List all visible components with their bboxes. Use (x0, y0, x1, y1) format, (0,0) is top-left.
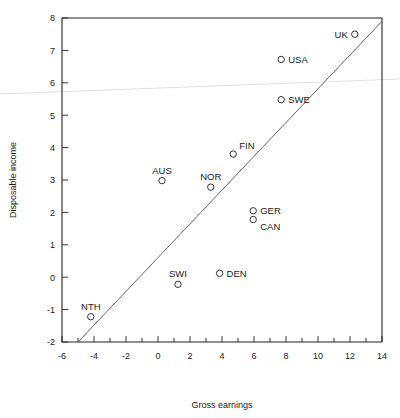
y-tick-label: 7 (50, 46, 55, 56)
data-point-label-swi: SWI (169, 268, 187, 279)
x-tick-label: 12 (345, 351, 355, 361)
x-tick-label: 6 (251, 351, 256, 361)
y-tick-label: 1 (50, 240, 55, 250)
data-point-label-fin: FIN (239, 140, 254, 151)
x-tick-label: 8 (283, 351, 288, 361)
data-point-label-nor: NOR (200, 171, 221, 182)
x-tick-label: 4 (219, 351, 224, 361)
data-point-label-swe: SWE (288, 94, 310, 105)
data-point-marker-uk (352, 31, 358, 37)
data-point-marker-can (250, 216, 256, 222)
data-point-label-uk: UK (335, 29, 349, 40)
y-tick-label: 5 (50, 111, 55, 121)
x-tick-label: 14 (377, 351, 387, 361)
y-tick-label: 8 (50, 13, 55, 23)
data-point-label-ger: GER (260, 205, 281, 216)
data-point-marker-swi (175, 281, 181, 287)
y-tick-label: 6 (50, 78, 55, 88)
reference-diagonal-line (78, 21, 382, 342)
x-axis-title: Gross earnings (191, 400, 253, 410)
scan-artifact-line (0, 79, 400, 94)
data-point-marker-den (216, 270, 222, 276)
y-axis-title: Disposable income (8, 142, 18, 218)
x-tick-label: 10 (313, 351, 323, 361)
data-point-marker-swe (278, 96, 284, 102)
x-tick-label: -2 (122, 351, 130, 361)
data-point-label-usa: USA (288, 54, 308, 65)
scatter-chart-figure: -6-4-202468101214 -2-1012345678 UKUSASWE… (0, 0, 400, 418)
y-tick-label: -2 (47, 337, 55, 347)
y-tick-group: -2-1012345678 (47, 13, 68, 347)
data-point-marker-ger (250, 208, 256, 214)
data-points-group: UKUSASWEFINAUSNORGERCANDENSWINTH (81, 29, 358, 320)
chart-axes (62, 18, 382, 342)
x-tick-label: 2 (187, 351, 192, 361)
x-tick-group: -6-4-202468101214 (58, 336, 387, 361)
y-tick-label: 0 (50, 273, 55, 283)
data-point-marker-nor (208, 184, 214, 190)
chart-canvas: -6-4-202468101214 -2-1012345678 UKUSASWE… (0, 0, 400, 418)
y-tick-label: 4 (50, 143, 55, 153)
data-point-label-can: CAN (260, 221, 280, 232)
x-tick-label: 0 (155, 351, 160, 361)
data-point-marker-usa (278, 56, 284, 62)
data-point-label-den: DEN (227, 268, 247, 279)
y-tick-label: 3 (50, 175, 55, 185)
y-tick-label: 2 (50, 208, 55, 218)
data-point-marker-fin (230, 151, 236, 157)
data-point-label-aus: AUS (152, 165, 172, 176)
y-tick-label: -1 (47, 305, 55, 315)
data-point-label-nth: NTH (81, 301, 101, 312)
data-point-marker-nth (88, 314, 94, 320)
reference-line-group (78, 21, 382, 342)
x-tick-label: -6 (58, 351, 66, 361)
x-tick-label: -4 (90, 351, 98, 361)
data-point-marker-aus (159, 177, 165, 183)
